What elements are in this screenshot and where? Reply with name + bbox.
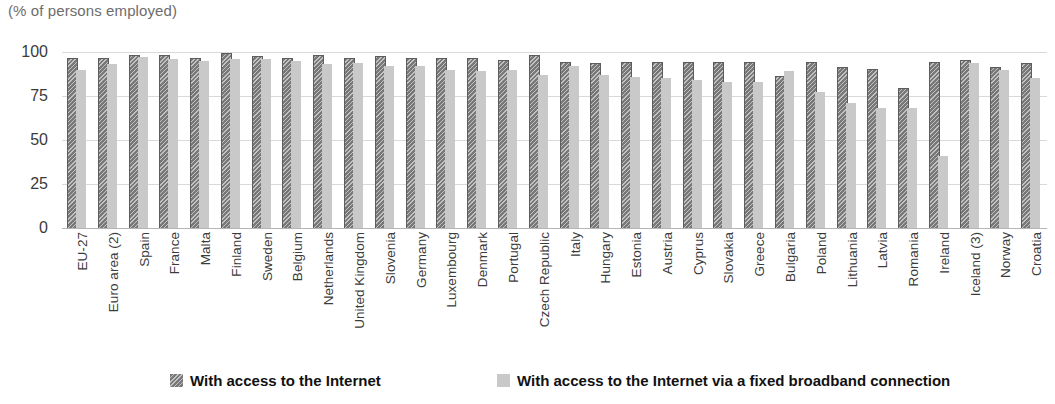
bar-group (190, 52, 216, 228)
bar-group (67, 52, 93, 228)
x-tick-label: Luxembourg (444, 232, 459, 308)
y-axis-labels: 0255075100 (0, 52, 56, 228)
bar-broadband[interactable] (261, 59, 271, 228)
bar-group (744, 52, 770, 228)
x-axis-labels: EU-27Euro area (2)SpainFranceMaltaFinlan… (62, 232, 1047, 362)
x-tick-label: Germany (414, 232, 429, 288)
bar-broadband[interactable] (384, 66, 394, 228)
legend-label-internet: With access to the Internet (190, 372, 381, 389)
legend-item-internet[interactable]: With access to the Internet (170, 372, 381, 389)
chart-subtitle: (% of persons employed) (8, 2, 177, 19)
bar-broadband[interactable] (415, 66, 425, 228)
bar-broadband[interactable] (76, 70, 86, 228)
bar-broadband[interactable] (168, 59, 178, 228)
bar-group (867, 52, 893, 228)
bar-group (837, 52, 863, 228)
bar-broadband[interactable] (753, 82, 763, 228)
x-tick-label: Croatia (1029, 232, 1044, 276)
bar-group (313, 52, 339, 228)
bar-broadband[interactable] (291, 61, 301, 228)
x-tick-label: Italy (568, 232, 583, 257)
y-tick-label: 50 (30, 131, 48, 149)
bar-group (98, 52, 124, 228)
bar-broadband[interactable] (569, 66, 579, 228)
bar-broadband[interactable] (846, 103, 856, 228)
x-tick-label: Bulgaria (783, 232, 798, 282)
bar-broadband[interactable] (445, 70, 455, 228)
bar-broadband[interactable] (107, 64, 117, 228)
bar-group (406, 52, 432, 228)
bar-group (929, 52, 955, 228)
bar-series-container (62, 52, 1047, 228)
x-tick-label: Austria (660, 232, 675, 274)
bar-broadband[interactable] (599, 75, 609, 228)
bar-group (436, 52, 462, 228)
bar-broadband[interactable] (630, 77, 640, 228)
bar-broadband[interactable] (476, 71, 486, 228)
bar-broadband[interactable] (815, 92, 825, 228)
bar-group (282, 52, 308, 228)
x-tick-label: Ireland (937, 232, 952, 274)
bar-group (898, 52, 924, 228)
bar-broadband[interactable] (538, 75, 548, 228)
legend-label-broadband: With access to the Internet via a fixed … (517, 372, 950, 389)
bar-broadband[interactable] (230, 59, 240, 228)
bar-group (806, 52, 832, 228)
bar-broadband[interactable] (969, 63, 979, 228)
x-tick-label: Finland (229, 232, 244, 277)
x-tick-label: Latvia (875, 232, 890, 268)
bar-broadband[interactable] (507, 70, 517, 228)
bar-broadband[interactable] (938, 156, 948, 228)
bar-broadband[interactable] (784, 71, 794, 228)
bar-broadband[interactable] (722, 82, 732, 228)
x-tick-label: Slovenia (383, 232, 398, 284)
bar-group (1021, 52, 1047, 228)
bar-group (621, 52, 647, 228)
x-tick-label: Cyprus (691, 232, 706, 275)
bar-group (221, 52, 247, 228)
bar-group (129, 52, 155, 228)
bar-broadband[interactable] (353, 63, 363, 228)
x-tick-label: Czech Republic (537, 232, 552, 327)
x-tick-label: Hungary (598, 232, 613, 283)
bar-group (775, 52, 801, 228)
bar-group (960, 52, 986, 228)
x-tick-label: Slovakia (721, 232, 736, 283)
x-tick-label: Sweden (260, 232, 275, 281)
light-gray-swatch (497, 374, 510, 387)
x-tick-label: Belgium (290, 232, 305, 281)
bar-group (990, 52, 1016, 228)
bar-group (652, 52, 678, 228)
legend-item-broadband[interactable]: With access to the Internet via a fixed … (497, 372, 950, 389)
bar-broadband[interactable] (692, 80, 702, 228)
bar-broadband[interactable] (199, 61, 209, 228)
bar-broadband[interactable] (876, 108, 886, 228)
y-tick-label: 75 (30, 87, 48, 105)
x-tick-label: Euro area (2) (106, 232, 121, 312)
x-tick-label: EU-27 (75, 232, 90, 271)
bar-broadband[interactable] (999, 70, 1009, 228)
dark-hatched-swatch (170, 374, 183, 387)
bar-group (467, 52, 493, 228)
x-tick-label: Lithuania (845, 232, 860, 287)
bar-broadband[interactable] (661, 78, 671, 228)
x-tick-label: Estonia (629, 232, 644, 277)
gridline-0 (62, 228, 1047, 229)
y-tick-label: 25 (30, 175, 48, 193)
bar-broadband[interactable] (1030, 78, 1040, 228)
x-tick-label: Denmark (475, 232, 490, 287)
chart-legend: With access to the Internet With access … (0, 372, 1055, 398)
bar-group (344, 52, 370, 228)
bar-group (159, 52, 185, 228)
bar-group (683, 52, 709, 228)
x-tick-label: Romania (906, 232, 921, 286)
bar-broadband[interactable] (907, 108, 917, 228)
x-tick-label: United Kingdom (352, 232, 367, 329)
bar-broadband[interactable] (138, 57, 148, 228)
bar-broadband[interactable] (322, 64, 332, 228)
bar-group (529, 52, 555, 228)
x-tick-label: Poland (814, 232, 829, 274)
x-tick-label: Portugal (506, 232, 521, 283)
y-tick-label: 100 (21, 43, 48, 61)
bar-group (375, 52, 401, 228)
